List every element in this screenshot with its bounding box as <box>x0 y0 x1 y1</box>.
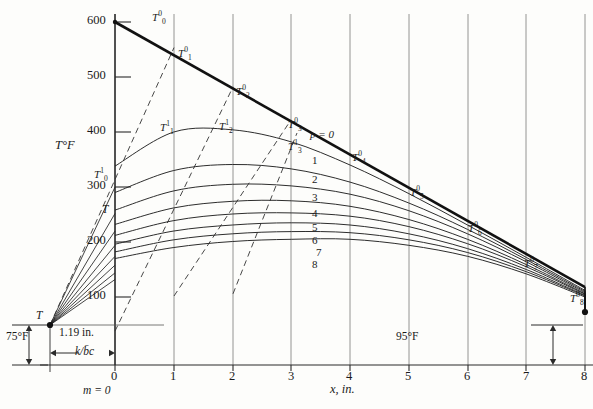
node-label-T5-0: T05 <box>410 185 424 200</box>
node-label-T3-1: T13 <box>288 139 302 154</box>
right-surface-node <box>582 309 588 315</box>
node-label-T1-0: T01 <box>178 46 192 61</box>
curve-label-6: 6 <box>312 235 318 246</box>
y-axis-title: T°F <box>55 139 75 152</box>
xtick-label-4: 4 <box>346 370 352 383</box>
curve-label-7: 7 <box>316 247 322 258</box>
interior-temperature-marker: T <box>102 204 108 216</box>
curve-label-4: 4 <box>312 208 318 219</box>
dashed-T1first-to-T3top <box>174 120 291 296</box>
figure-canvas: 600 500 400 300 200 100 0 1 2 3 4 5 6 7 … <box>0 0 593 409</box>
node-label-T2-1: T12 <box>219 119 233 134</box>
node-label-T7-0: T07 <box>524 256 538 271</box>
arrowhead-down-75 <box>26 359 32 365</box>
node-label-T4-0: T04 <box>352 150 366 165</box>
curve-label-3: 3 <box>312 192 318 203</box>
arrowhead-up-95 <box>550 325 556 331</box>
ytick-label-400: 400 <box>87 124 106 137</box>
node-label-T0-1: T10 <box>94 167 108 182</box>
m-index-label: m = 0 <box>83 385 111 397</box>
left-gap-label: 75°F <box>6 331 29 343</box>
fan-line-p4 <box>50 245 115 325</box>
node-label-T3-0: T03 <box>288 117 302 132</box>
arrowhead-down-95 <box>550 359 556 365</box>
node-label-T2-0: T02 <box>236 84 250 99</box>
vertical-gridlines <box>115 14 585 365</box>
ytick-label-600: 600 <box>87 14 106 27</box>
fan-line-p2 <box>50 214 115 326</box>
left-offset-symbol-label: k/b̄c <box>75 346 94 358</box>
xtick-label-3: 3 <box>288 370 294 383</box>
curve-label-5: 5 <box>312 222 318 233</box>
xtick-label-6: 6 <box>464 370 470 383</box>
right-temperature-dimension <box>531 325 583 365</box>
arrowhead-right-119 <box>109 350 115 356</box>
curve-label-1: 1 <box>312 155 318 166</box>
node-label-T1-1: T11 <box>160 120 174 135</box>
xtick-label-1: 1 <box>170 370 176 383</box>
node-label-T8-0: T08 <box>570 291 584 306</box>
node-label-T6-0: T06 <box>468 221 482 236</box>
arrowhead-left-119 <box>50 350 56 356</box>
xtick-label-5: 5 <box>405 370 411 383</box>
node-label-T0-0: T00 <box>152 10 166 25</box>
dashed-T0low-to-T1top <box>50 48 174 325</box>
ytick-label-200: 200 <box>87 234 106 247</box>
left-offset-distance-label: 1.19 in. <box>59 327 94 339</box>
curve-label-8: 8 <box>312 259 318 270</box>
curve-label-p0: p = 0 <box>310 129 334 140</box>
left-surface-temperature-label: T <box>36 310 42 322</box>
xtick-label-0: 0 <box>111 370 117 383</box>
curve-label-2: 2 <box>312 174 318 185</box>
xtick-label-2: 2 <box>229 370 235 383</box>
xtick-label-7: 7 <box>523 370 529 383</box>
xtick-label-8: 8 <box>581 370 587 383</box>
ytick-label-100: 100 <box>87 289 106 302</box>
left-surface-node <box>47 322 53 328</box>
ytick-label-500: 500 <box>87 69 106 82</box>
x-axis-title: x, in. <box>330 383 355 396</box>
sub-0: 0 <box>162 17 166 26</box>
right-gap-label: 95°F <box>396 331 419 343</box>
node-T0-top <box>113 20 117 24</box>
